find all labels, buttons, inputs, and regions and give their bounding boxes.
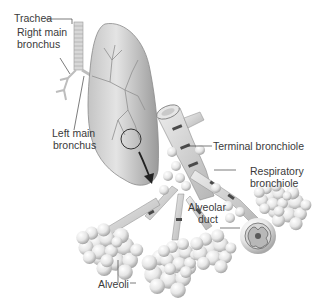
label-alveolar-duct-line1: Alveolar bbox=[188, 201, 226, 213]
lung-shape bbox=[88, 23, 159, 185]
label-left-main-bronchus-line1: Left main bbox=[52, 127, 95, 139]
respiratory-diagram: Trachea Right main bronchus Left main br… bbox=[0, 0, 317, 308]
label-respiratory-bronchiole-line1: Respiratory bbox=[250, 165, 304, 177]
label-right-main-bronchus-line1: Right main bbox=[17, 26, 67, 38]
label-respiratory-bronchiole-line2: bronchiole bbox=[250, 177, 298, 189]
label-left-main-bronchus-line2: bronchus bbox=[53, 139, 96, 151]
label-alveolar-duct-line2: duct bbox=[198, 213, 218, 225]
label-alveoli: Alveoli bbox=[98, 278, 129, 290]
label-right-main-bronchus-line2: bronchus bbox=[17, 38, 60, 50]
label-terminal-bronchiole: Terminal bronchiole bbox=[213, 140, 304, 152]
alveolar-sac-cutaway bbox=[240, 218, 276, 254]
label-trachea: Trachea bbox=[14, 12, 52, 24]
